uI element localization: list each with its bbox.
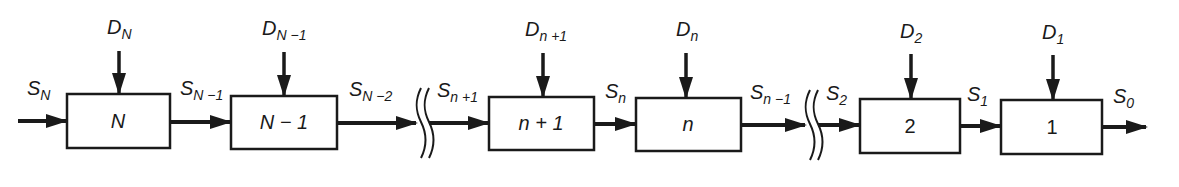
- stage-box-N: N: [67, 94, 170, 148]
- state-label-S_2: S2: [826, 82, 847, 108]
- decision-label-D_N: DN: [107, 16, 132, 42]
- decision-label-D_n+1: Dn +1: [525, 18, 567, 44]
- stage-box-N-minus-1: N − 1: [231, 96, 337, 149]
- stage-label-n-plus-1: n + 1: [518, 112, 563, 134]
- stage-box-n-plus-1: n + 1: [489, 97, 594, 150]
- state-label-S_N-1: SN −1: [180, 77, 223, 103]
- decision-label-D_2: D2: [900, 20, 922, 46]
- state-label-S_0: S0: [1113, 85, 1134, 111]
- stage-label-1: 1: [1046, 116, 1057, 138]
- decision-label-D_N-1: DN −1: [262, 17, 306, 43]
- state-label-S_n: Sn: [605, 80, 626, 106]
- stage-label-n: n: [682, 113, 693, 135]
- stage-label-N-minus-1: N − 1: [260, 111, 308, 133]
- decision-label-D_n: Dn: [676, 18, 698, 44]
- decision-label-D_1: D1: [1042, 21, 1064, 47]
- stage-box-n: n: [636, 98, 741, 151]
- state-label-S_n+1: Sn +1: [437, 79, 478, 105]
- state-label-S_n-1: Sn −1: [750, 81, 791, 107]
- stage-label-N: N: [111, 110, 126, 132]
- state-label-S_N: SN: [27, 77, 51, 103]
- state-label-S_1: S1: [967, 83, 988, 109]
- state-label-S_N-2: SN −2: [349, 78, 393, 104]
- stage-box-1: 1: [1001, 100, 1102, 154]
- stage-box-2: 2: [860, 99, 960, 153]
- multistage-diagram: N N − 1 n + 1 n 2 1: [0, 0, 1179, 187]
- stage-label-2: 2: [904, 115, 915, 137]
